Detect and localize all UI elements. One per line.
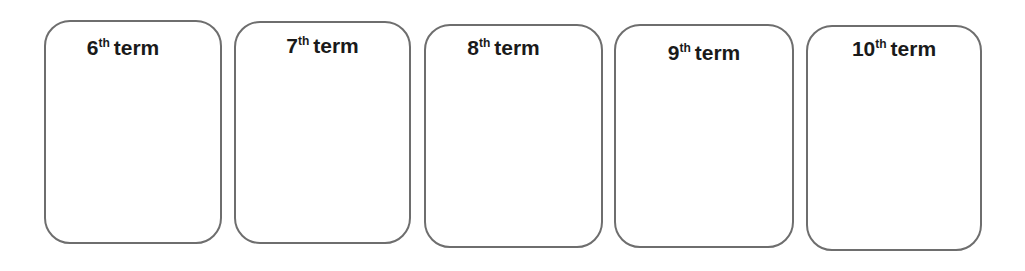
term-card-label: 8thterm [416,36,591,60]
term-card-label: 10thterm [808,37,980,61]
term-card-6: 6thterm [44,20,222,244]
term-card-9: 9thterm [614,24,794,248]
term-card-7: 7thterm [234,21,411,244]
term-card-label: 7thterm [236,34,409,58]
term-card-10: 10thterm [806,25,982,251]
term-card-label: 6thterm [36,36,210,60]
term-card-label: 9thterm [616,41,792,65]
term-card-8: 8thterm [424,24,603,248]
